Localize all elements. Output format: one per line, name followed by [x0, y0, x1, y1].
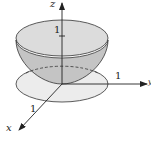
- x-tick-label: 1: [30, 103, 36, 114]
- x-axis-label: x: [6, 122, 12, 133]
- y-tick-label: 1: [115, 70, 121, 81]
- y-axis-label: y: [147, 78, 151, 86]
- z-axis-label: z: [49, 0, 56, 9]
- paraboloid-diagram: z 1 1 y 1 x: [0, 0, 151, 146]
- z-tick-label: 1: [54, 24, 60, 35]
